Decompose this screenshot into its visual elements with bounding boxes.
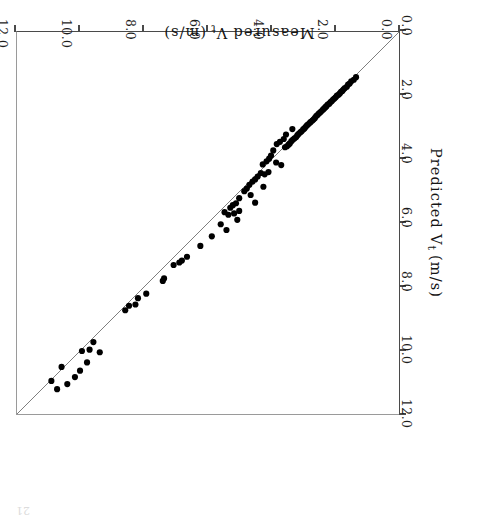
data-point <box>90 339 96 345</box>
data-point <box>184 254 190 260</box>
data-point <box>48 378 54 384</box>
y-axis-tick-label: 12.0 <box>399 399 414 428</box>
data-point <box>209 233 215 239</box>
data-point <box>64 381 70 387</box>
x-axis-title-pre: Measured <box>232 25 314 41</box>
data-point <box>79 348 85 354</box>
data-point <box>58 364 64 370</box>
data-point <box>234 217 240 223</box>
data-point <box>223 227 229 233</box>
data-point <box>260 161 266 167</box>
y-axis-tick-label: 2.0 <box>399 79 414 100</box>
data-point <box>176 259 182 265</box>
data-point <box>143 291 149 297</box>
y-axis-tick-label: 6.0 <box>399 207 414 228</box>
data-point <box>236 195 242 201</box>
data-point <box>197 243 203 249</box>
data-point <box>218 221 224 227</box>
data-point <box>289 126 295 132</box>
data-point <box>221 209 227 215</box>
y-axis-tick-label: 10.0 <box>399 335 414 364</box>
data-point <box>260 184 266 190</box>
data-point <box>273 159 279 165</box>
scatter-plot-canvas <box>17 32 399 414</box>
y-axis-title-symbol: V <box>428 234 444 246</box>
figure-root: 0.02.04.06.08.010.012.0 0.02.04.06.08.01… <box>0 0 478 519</box>
data-point <box>227 205 233 211</box>
data-point <box>231 210 237 216</box>
data-point <box>241 188 247 194</box>
x-axis-title: MeasuredVt(m/s) <box>0 22 478 41</box>
data-point <box>132 301 138 307</box>
data-point <box>135 295 141 301</box>
x-axis-title-subscript: t <box>211 22 216 35</box>
data-point <box>72 374 78 380</box>
data-point <box>122 307 128 313</box>
data-point <box>84 359 90 365</box>
data-point <box>86 347 92 353</box>
data-point <box>160 278 166 284</box>
data-point <box>252 200 258 206</box>
data-point <box>97 349 103 355</box>
data-point <box>274 141 280 147</box>
data-point <box>54 386 60 392</box>
y-axis-title-subscript: t <box>425 245 438 250</box>
y-axis-tick-label: 8.0 <box>399 271 414 292</box>
x-axis-title-units: (m/s) <box>163 25 206 41</box>
data-point <box>171 262 177 268</box>
data-points-group <box>48 74 359 392</box>
plot-area <box>16 31 400 415</box>
y-axis-title-pre: Predicted <box>428 148 444 229</box>
data-point <box>248 192 254 198</box>
y-axis-title: PredictedVt(m/s) <box>425 31 444 415</box>
data-point <box>282 144 288 150</box>
data-point <box>77 368 83 374</box>
page-number-artifact: 21 <box>16 504 30 517</box>
y-axis-tick-label: 4.0 <box>399 143 414 164</box>
x-axis-title-symbol: V <box>216 25 228 41</box>
y-axis-title-units: (m/s) <box>428 255 444 298</box>
